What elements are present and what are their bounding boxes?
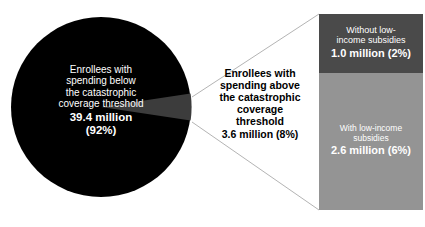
bar-top-line-1: Without low- bbox=[346, 25, 396, 35]
pie-slice-below-threshold-label: Enrollees with spending below the catast… bbox=[18, 64, 184, 137]
callout-line-2: spending above bbox=[220, 79, 300, 91]
bar-bottom-line-2: subsidies bbox=[353, 133, 388, 143]
callout-line-4: coverage bbox=[237, 103, 283, 115]
pie-label-line-2: spending below bbox=[66, 75, 136, 86]
bar-bottom-line-1: With low-income bbox=[340, 123, 402, 133]
callout-line-3: the catastrophic bbox=[219, 91, 300, 103]
bar-top-value: 1.0 million (2%) bbox=[319, 47, 423, 60]
callout-line-1: Enrollees with bbox=[224, 67, 295, 79]
bar-segment-without-subsidies-label: Without low- income subsidies 1.0 millio… bbox=[319, 25, 423, 59]
pie-label-line-4: coverage threshold bbox=[58, 98, 143, 109]
catastrophic-coverage-figure: Enrollees with spending below the catast… bbox=[0, 0, 425, 227]
callout-above-threshold-label: Enrollees with spending above the catast… bbox=[203, 68, 317, 141]
callout-value: 3.6 million (8%) bbox=[203, 129, 317, 141]
pie-label-line-3: the catastrophic bbox=[66, 87, 137, 98]
bar-bottom-value: 2.6 million (6%) bbox=[319, 144, 423, 157]
callout-line-5: threshold bbox=[236, 115, 284, 127]
bar-segment-with-subsidies-label: With low-income subsidies 2.6 million (6… bbox=[319, 124, 423, 157]
pie-label-percent: (92%) bbox=[18, 124, 184, 137]
pie-label-value: 39.4 million bbox=[18, 111, 184, 124]
bar-top-line-2: income subsidies bbox=[336, 35, 405, 45]
pie-label-line-1: Enrollees with bbox=[70, 64, 132, 75]
